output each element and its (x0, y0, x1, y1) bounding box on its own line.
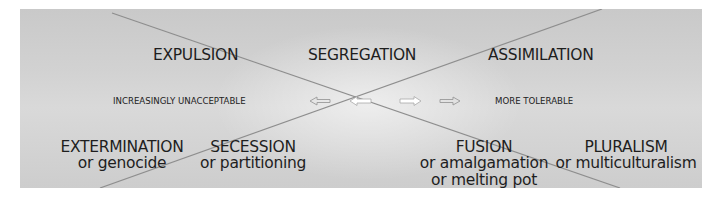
label-fusion: FUSION or amalgamation or melting pot (417, 139, 551, 188)
segregation-title: SEGREGATION (308, 47, 416, 63)
label-secession: SECESSION or partitioning (193, 139, 313, 172)
label-pluralism: PLURALISM or multiculturalism (555, 139, 697, 172)
expulsion-title: EXPULSION (153, 47, 238, 63)
label-expulsion: EXPULSION (153, 47, 238, 63)
right-axis-text: MORE TOLERABLE (495, 97, 573, 106)
label-increasingly-unacceptable: INCREASINGLY UNACCEPTABLE (113, 97, 246, 106)
diagram-panel: EXPULSION SEGREGATION ASSIMILATION INCRE… (20, 9, 702, 188)
label-extermination: EXTERMINATION or genocide (52, 139, 192, 172)
left-axis-text: INCREASINGLY UNACCEPTABLE (113, 97, 246, 106)
left-outline-arrow-icon (310, 97, 330, 105)
pluralism-title: PLURALISM (555, 139, 697, 155)
label-segregation: SEGREGATION (308, 47, 416, 63)
label-more-tolerable: MORE TOLERABLE (495, 97, 573, 106)
fusion-subtitle-2: or melting pot (417, 172, 551, 188)
secession-title: SECESSION (193, 139, 313, 155)
fusion-title: FUSION (417, 139, 551, 155)
label-assimilation: ASSIMILATION (488, 47, 593, 63)
right-outline-arrow-icon (440, 97, 460, 105)
right-solid-arrow-icon (400, 97, 421, 106)
secession-subtitle: or partitioning (193, 155, 313, 171)
pluralism-subtitle: or multiculturalism (555, 155, 697, 171)
extermination-title: EXTERMINATION (52, 139, 192, 155)
extermination-subtitle: or genocide (52, 155, 192, 171)
fusion-subtitle-1: or amalgamation (417, 155, 551, 171)
assimilation-title: ASSIMILATION (488, 47, 593, 63)
